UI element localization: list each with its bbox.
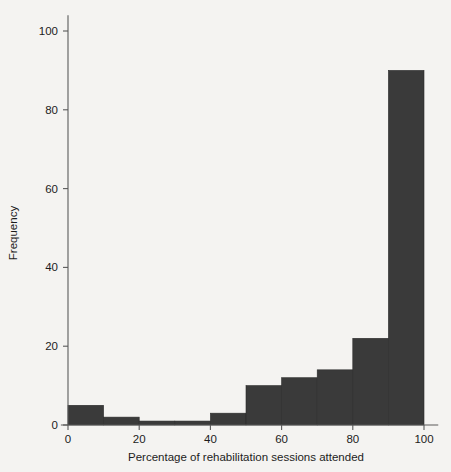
x-tick-label: 100: [414, 433, 433, 445]
x-axis-title: Percentage of rehabilitation sessions at…: [128, 451, 364, 463]
y-axis-title: Frequency: [7, 206, 19, 261]
histogram-svg: 020406080100 020406080100 Percentage of …: [0, 0, 451, 472]
histogram-bar: [317, 370, 353, 425]
histogram-bar: [139, 421, 175, 425]
histogram-bar: [282, 378, 318, 425]
x-tick-label: 80: [346, 433, 359, 445]
y-tick-label: 20: [45, 340, 58, 352]
y-tick-label: 0: [52, 419, 58, 431]
histogram-bar: [68, 405, 104, 425]
y-tick-label: 60: [45, 183, 58, 195]
histogram-bar: [388, 70, 424, 425]
histogram-bar: [104, 417, 140, 425]
histogram-figure: 020406080100 020406080100 Percentage of …: [0, 0, 451, 472]
x-tick-label: 40: [204, 433, 217, 445]
y-tick-label: 100: [39, 25, 58, 37]
histogram-bar: [246, 386, 282, 425]
histogram-bar: [210, 413, 246, 425]
histogram-bar: [175, 421, 211, 425]
y-tick-label: 80: [45, 104, 58, 116]
x-tick-label: 0: [65, 433, 71, 445]
x-tick-label: 60: [275, 433, 288, 445]
x-tick-label: 20: [133, 433, 146, 445]
histogram-bar: [353, 338, 389, 425]
y-tick-label: 40: [45, 261, 58, 273]
